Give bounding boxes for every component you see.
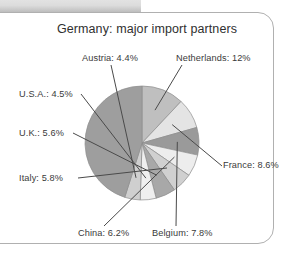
pie-label-netherlands: Netherlands: 12% xyxy=(176,53,251,63)
pie-label-usa: U.S.A.: 4.5% xyxy=(19,89,73,99)
pie-label-france: France: 8.6% xyxy=(223,160,279,170)
pie-label-italy: Italy: 5.8% xyxy=(19,173,63,183)
pie-label-china: China: 6.2% xyxy=(78,228,129,238)
pie-label-austria: Austria: 4.4% xyxy=(82,53,138,63)
pie-label-belgium: Belgium: 7.8% xyxy=(152,228,213,238)
pie-label-uk: U.K.: 5.6% xyxy=(19,128,64,138)
pie-slice-group xyxy=(85,86,199,200)
figure-container: Germany: major import partners Netherlan… xyxy=(0,0,294,255)
